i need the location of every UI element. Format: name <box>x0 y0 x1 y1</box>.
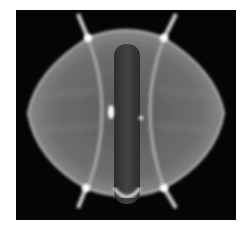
plasma-image-frame <box>16 10 236 220</box>
center-column <box>114 44 140 204</box>
plasma-image <box>16 10 236 220</box>
